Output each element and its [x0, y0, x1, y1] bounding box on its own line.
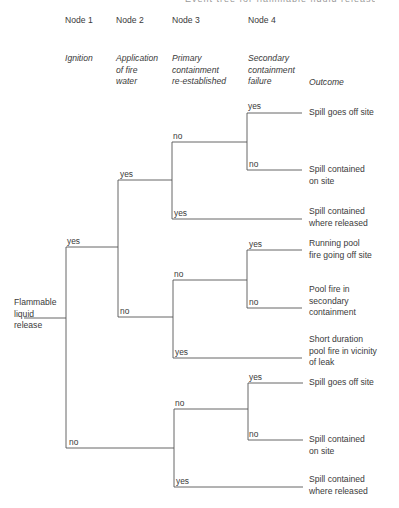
branch-label-n2-no: no: [120, 306, 129, 316]
outcome-line: secondary: [309, 296, 356, 308]
outcome-line: fire going off site: [309, 250, 372, 262]
outcome-line: Spill contained: [309, 434, 365, 446]
outcome-line: Spill contained: [309, 206, 368, 218]
branch-label-n4c-no: no: [249, 429, 258, 439]
outcome-1: Spill goes off site: [309, 107, 374, 119]
branch-label-n4b-yes: yes: [249, 239, 262, 249]
root-event-line: liquid: [14, 309, 57, 321]
outcome-line: Spill contained: [309, 164, 365, 176]
branch-label-n3b-yes: yes: [175, 347, 188, 357]
outcome-line: containment: [309, 307, 356, 319]
outcome-8: Spill contained on site: [309, 434, 365, 457]
outcome-5: Pool fire in secondary containment: [309, 284, 356, 319]
outcome-line: where released: [309, 218, 368, 230]
root-event: Flammable liquid release: [14, 297, 57, 332]
outcome-line: pool fire in vicinity: [309, 346, 377, 358]
branch-label-n3b-no: no: [174, 269, 183, 279]
outcome-line: of leak: [309, 357, 377, 369]
branch-label-n4c-yes: yes: [249, 372, 262, 382]
outcome-line: Running pool: [309, 238, 372, 250]
outcome-line: Spill goes off site: [309, 107, 374, 119]
branch-label-n3a-no: no: [173, 131, 182, 141]
branch-label-n3c-yes: yes: [176, 476, 189, 486]
branch-label-n3a-yes: yes: [174, 208, 187, 218]
outcome-4: Running pool fire going off site: [309, 238, 372, 261]
branch-label-n3c-no: no: [175, 398, 184, 408]
outcome-line: Short duration: [309, 334, 377, 346]
outcome-2: Spill contained on site: [309, 164, 365, 187]
branch-label-n4a-yes: yes: [248, 101, 261, 111]
outcome-9: Spill contained where released: [309, 474, 368, 497]
outcome-6: Short duration pool fire in vicinity of …: [309, 334, 377, 369]
outcome-line: where released: [309, 486, 368, 498]
branch-label-n2-yes: yes: [120, 169, 133, 179]
branch-label-n1-yes: yes: [67, 236, 80, 246]
branch-label-n4b-no: no: [249, 297, 258, 307]
branch-label-n1-no: no: [69, 437, 78, 447]
outcome-3: Spill contained where released: [309, 206, 368, 229]
branch-label-n4a-no: no: [249, 159, 258, 169]
outcome-line: on site: [309, 446, 365, 458]
outcome-line: Spill contained: [309, 474, 368, 486]
outcome-7: Spill goes off site: [309, 377, 374, 389]
outcome-line: on site: [309, 176, 365, 188]
root-event-line: release: [14, 320, 57, 332]
outcome-line: Spill goes off site: [309, 377, 374, 389]
root-event-line: Flammable: [14, 297, 57, 309]
outcome-line: Pool fire in: [309, 284, 356, 296]
